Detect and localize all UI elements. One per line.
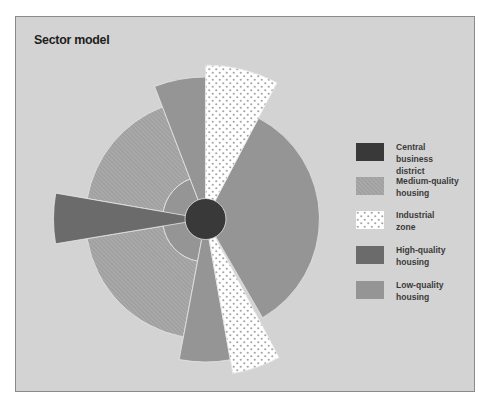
legend-label-line: Central business — [396, 141, 464, 165]
central-business-district — [185, 199, 226, 240]
legend-label-high: High-quality housing — [396, 244, 464, 268]
sector-model-panel: Sector model Central business district — [15, 16, 475, 392]
legend-label-line: Industrial — [396, 209, 464, 221]
legend-label-line: housing — [396, 256, 464, 268]
legend-label-low: Low-quality housing — [396, 279, 464, 303]
legend-label-line: Low-quality — [396, 279, 464, 291]
legend-label-medium: Medium-quality housing — [396, 175, 464, 199]
swatch-industrial-icon — [356, 211, 384, 229]
legend-item-medium: Medium-quality housing — [356, 175, 471, 205]
legend-item-cbd: Central business district — [356, 141, 471, 171]
legend-label-industrial: Industrial zone — [396, 209, 464, 233]
legend-label-line: zone — [396, 221, 464, 233]
swatch-medium-icon — [356, 177, 384, 195]
swatch-high-icon — [356, 246, 384, 264]
legend-label-line: Medium-quality — [396, 175, 464, 187]
legend-item-industrial: Industrial zone — [356, 209, 471, 239]
swatch-cbd-icon — [356, 143, 384, 161]
legend-label-line: High-quality — [396, 244, 464, 256]
legend-item-low: Low-quality housing — [356, 279, 471, 309]
legend-label-line: housing — [396, 187, 464, 199]
legend-item-high: High-quality housing — [356, 244, 471, 274]
legend-label-cbd: Central business district — [396, 141, 464, 177]
swatch-low-icon — [356, 281, 384, 299]
legend-label-line: housing — [396, 291, 464, 303]
